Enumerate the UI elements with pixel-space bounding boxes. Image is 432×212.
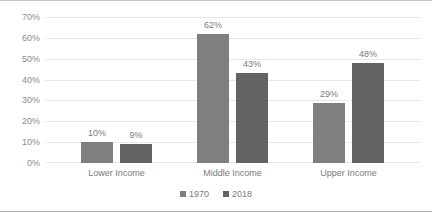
bar-group-middle-income: 62% 43%: [183, 17, 282, 163]
legend: 1970 2018: [0, 189, 432, 199]
bar-middle-1970[interactable]: [197, 34, 229, 163]
plot-area: 10% 9% 62% 43% 29% 48%: [45, 17, 420, 163]
y-tick-label-20: 20%: [0, 116, 40, 126]
y-tick-label-30: 30%: [0, 95, 40, 105]
y-tick-label-50: 50%: [0, 54, 40, 64]
bar-value-middle-2018: 43%: [230, 59, 274, 69]
bar-group-lower-income: 10% 9%: [67, 17, 166, 163]
x-tick-label-lower-income: Lower Income: [67, 167, 166, 179]
y-tick-label-40: 40%: [0, 75, 40, 85]
y-tick-label-70: 70%: [0, 12, 40, 22]
bar-upper-2018[interactable]: [352, 63, 384, 163]
bar-chart: 70% 60% 50% 40% 30% 20% 10% 0% 10% 9% 62…: [0, 0, 432, 212]
bar-lower-1970[interactable]: [81, 142, 113, 163]
legend-entry-2018[interactable]: 2018: [223, 189, 252, 199]
y-tick-label-60: 60%: [0, 33, 40, 43]
y-tick-label-0: 0%: [0, 158, 40, 168]
legend-swatch-icon-2018: [223, 191, 229, 197]
bar-middle-2018[interactable]: [236, 73, 268, 163]
bar-value-upper-1970: 29%: [307, 89, 351, 99]
bar-lower-2018[interactable]: [120, 144, 152, 163]
x-axis: Lower Income Middle Income Upper Income: [45, 167, 420, 181]
bar-upper-1970[interactable]: [313, 103, 345, 163]
legend-label-2018: 2018: [232, 189, 252, 199]
y-tick-label-10: 10%: [0, 137, 40, 147]
bar-value-middle-1970: 62%: [191, 20, 235, 30]
bar-group-upper-income: 29% 48%: [299, 17, 398, 163]
bar-value-lower-2018: 9%: [114, 130, 158, 140]
bar-value-upper-2018: 48%: [346, 49, 390, 59]
bar-value-lower-1970: 10%: [75, 128, 119, 138]
legend-entry-1970[interactable]: 1970: [180, 189, 209, 199]
y-axis: 70% 60% 50% 40% 30% 20% 10% 0%: [0, 17, 40, 163]
legend-swatch-icon-1970: [180, 191, 186, 197]
x-tick-label-middle-income: Middle Income: [183, 167, 282, 179]
x-tick-label-upper-income: Upper Income: [299, 167, 398, 179]
legend-label-1970: 1970: [189, 189, 209, 199]
